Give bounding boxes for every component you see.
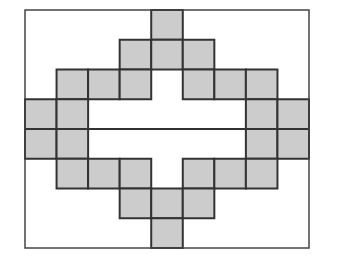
shaded-cell (183, 159, 215, 189)
shaded-cell (151, 218, 183, 248)
shaded-cell (88, 159, 120, 189)
shaded-cell (88, 70, 120, 100)
shaded-cell (120, 40, 152, 70)
shaded-cell (25, 99, 57, 129)
shaded-cell (246, 99, 278, 129)
shaded-cell (277, 99, 309, 129)
shaded-cell (57, 70, 89, 100)
shaded-cell (277, 129, 309, 159)
shaded-cell (214, 70, 246, 100)
shaded-cell (246, 129, 278, 159)
shaded-cell (246, 159, 278, 189)
shaded-cell (214, 159, 246, 189)
shaded-cell (151, 10, 183, 40)
shaded-cell (57, 129, 89, 159)
shaded-cell (120, 189, 152, 219)
shaded-cell (183, 40, 215, 70)
shaded-cell (183, 70, 215, 100)
grid-diagram (0, 0, 339, 257)
shaded-cell (120, 159, 152, 189)
shaded-cell (151, 189, 183, 219)
shaded-cell (183, 189, 215, 219)
shaded-cell (246, 70, 278, 100)
shaded-cell (120, 70, 152, 100)
shaded-cell (57, 99, 89, 129)
shaded-cell (57, 159, 89, 189)
shaded-cell (25, 129, 57, 159)
shaded-cell (151, 40, 183, 70)
